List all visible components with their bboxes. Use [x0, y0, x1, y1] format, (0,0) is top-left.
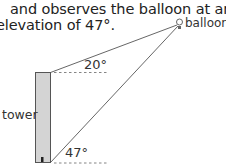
tower-label: tower — [2, 107, 38, 122]
balloon-label: balloon — [185, 16, 226, 30]
balloon-basket-icon — [178, 26, 181, 29]
angle-bottom-label: 47° — [65, 145, 88, 160]
sight-line-bottom — [51, 26, 179, 163]
angle-top-label: 20° — [84, 57, 107, 72]
observer-marker — [41, 157, 44, 162]
sight-line-top — [51, 25, 178, 73]
balloon-icon — [177, 19, 183, 25]
